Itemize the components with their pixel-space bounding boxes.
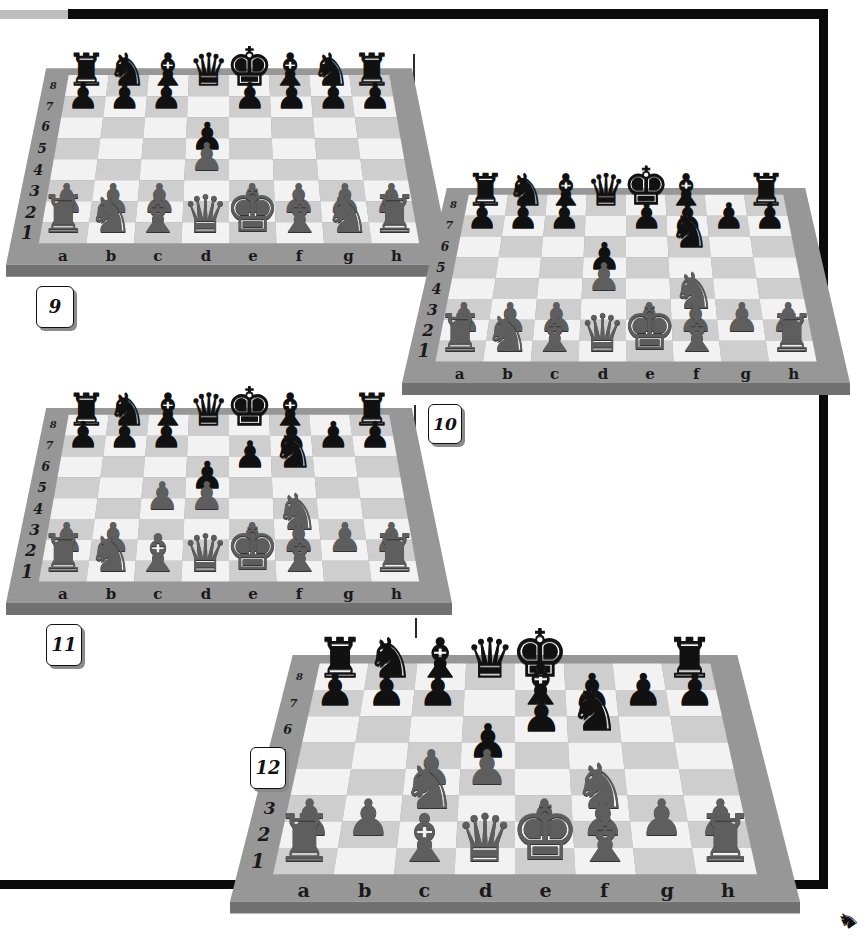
black-pawn-icon[interactable]: ♟ xyxy=(507,198,539,233)
black-pawn-icon[interactable]: ♟ xyxy=(754,198,786,233)
black-pawn-icon[interactable]: ♟ xyxy=(367,668,407,712)
square-f6[interactable] xyxy=(271,117,315,138)
square-a5[interactable] xyxy=(54,477,101,498)
square-h6[interactable] xyxy=(670,716,728,742)
square-h5[interactable] xyxy=(358,477,405,498)
square-a5[interactable] xyxy=(54,138,101,159)
white-knight-icon[interactable]: ♞ xyxy=(87,188,134,240)
black-pawn-icon[interactable]: ♟ xyxy=(359,78,391,114)
square-e6[interactable] xyxy=(229,117,272,138)
square-b6[interactable] xyxy=(499,237,544,258)
white-pawn-icon[interactable]: ♟ xyxy=(466,743,509,791)
black-pawn-icon[interactable]: ♟ xyxy=(631,198,663,233)
black-pawn-icon[interactable]: ♟ xyxy=(466,198,498,233)
square-b6[interactable] xyxy=(100,117,145,138)
white-pawn-icon[interactable]: ♟ xyxy=(190,138,224,176)
black-pawn-icon[interactable]: ♟ xyxy=(317,78,349,114)
white-king-icon[interactable]: ♚ xyxy=(510,793,581,872)
square-g6[interactable] xyxy=(709,237,754,258)
square-h5[interactable] xyxy=(358,138,405,159)
black-king-icon[interactable]: ♚ xyxy=(225,380,273,434)
white-bishop-icon[interactable]: ♝ xyxy=(531,307,578,359)
square-e5[interactable] xyxy=(515,743,570,769)
white-bishop-icon[interactable]: ♝ xyxy=(395,805,454,871)
square-a6[interactable] xyxy=(57,117,103,138)
square-c6[interactable] xyxy=(541,237,584,258)
white-pawn-icon[interactable]: ♟ xyxy=(724,298,760,338)
square-b6[interactable] xyxy=(355,716,411,742)
square-b5[interactable] xyxy=(98,477,144,498)
black-pawn-icon[interactable]: ♟ xyxy=(521,693,562,738)
white-knight-icon[interactable]: ♞ xyxy=(484,307,531,359)
white-queen-icon[interactable]: ♛ xyxy=(579,307,626,359)
white-pawn-icon[interactable]: ♟ xyxy=(327,518,363,558)
square-h6[interactable] xyxy=(355,117,401,138)
white-king-icon[interactable]: ♚ xyxy=(622,297,678,359)
white-rook-icon[interactable]: ♜ xyxy=(437,307,484,359)
black-pawn-icon[interactable]: ♟ xyxy=(675,668,715,712)
black-pawn-icon[interactable]: ♟ xyxy=(67,417,99,453)
square-a6[interactable] xyxy=(57,457,103,478)
square-g5[interactable] xyxy=(711,257,757,278)
square-h6[interactable] xyxy=(750,237,796,258)
square-d7[interactable] xyxy=(463,690,515,716)
square-e5[interactable] xyxy=(229,138,273,159)
black-pawn-icon[interactable]: ♟ xyxy=(275,78,307,114)
black-knight-icon[interactable]: ♞ xyxy=(272,427,314,474)
white-bishop-icon[interactable]: ♝ xyxy=(135,188,182,240)
square-b6[interactable] xyxy=(100,457,145,478)
white-bishop-icon[interactable]: ♝ xyxy=(575,805,634,871)
white-queen-icon[interactable]: ♛ xyxy=(455,805,514,871)
square-e5[interactable] xyxy=(229,477,273,498)
square-a5[interactable] xyxy=(452,257,499,278)
square-g1[interactable] xyxy=(633,848,696,874)
white-pawn-icon[interactable]: ♟ xyxy=(639,793,684,844)
square-g1[interactable] xyxy=(322,561,371,582)
white-pawn-icon[interactable]: ♟ xyxy=(587,258,621,296)
black-pawn-icon[interactable]: ♟ xyxy=(150,78,182,114)
square-g6[interactable] xyxy=(313,117,358,138)
black-queen-icon[interactable]: ♛ xyxy=(465,631,514,686)
black-pawn-icon[interactable]: ♟ xyxy=(548,198,580,233)
black-knight-icon[interactable]: ♞ xyxy=(668,208,710,255)
black-pawn-icon[interactable]: ♟ xyxy=(234,78,266,114)
white-pawn-icon[interactable]: ♟ xyxy=(190,477,224,515)
square-g6[interactable] xyxy=(313,457,358,478)
black-queen-icon[interactable]: ♛ xyxy=(188,48,228,93)
black-queen-icon[interactable]: ♛ xyxy=(586,168,626,212)
square-e5[interactable] xyxy=(626,257,669,278)
white-rook-icon[interactable]: ♜ xyxy=(40,527,87,579)
black-pawn-icon[interactable]: ♟ xyxy=(150,417,182,453)
black-pawn-icon[interactable]: ♟ xyxy=(315,668,355,712)
white-queen-icon[interactable]: ♛ xyxy=(182,527,229,579)
black-pawn-icon[interactable]: ♟ xyxy=(359,417,391,453)
white-rook-icon[interactable]: ♜ xyxy=(275,805,334,871)
black-pawn-icon[interactable]: ♟ xyxy=(418,668,458,712)
square-c5[interactable] xyxy=(539,257,584,278)
square-b5[interactable] xyxy=(98,138,144,159)
square-g5[interactable] xyxy=(621,743,679,769)
white-bishop-icon[interactable]: ♝ xyxy=(135,527,182,579)
black-pawn-icon[interactable]: ♟ xyxy=(109,417,141,453)
white-queen-icon[interactable]: ♛ xyxy=(182,188,229,240)
square-h6[interactable] xyxy=(355,457,401,478)
white-rook-icon[interactable]: ♜ xyxy=(768,307,815,359)
square-g1[interactable] xyxy=(719,341,769,362)
black-pawn-icon[interactable]: ♟ xyxy=(67,78,99,114)
black-knight-icon[interactable]: ♞ xyxy=(568,681,620,739)
white-rook-icon[interactable]: ♜ xyxy=(40,188,87,240)
white-pawn-icon[interactable]: ♟ xyxy=(145,477,179,515)
square-g5[interactable] xyxy=(315,138,361,159)
square-f5[interactable] xyxy=(272,138,317,159)
white-rook-icon[interactable]: ♜ xyxy=(696,805,755,871)
square-c5[interactable] xyxy=(141,138,186,159)
black-pawn-icon[interactable]: ♟ xyxy=(713,198,745,233)
square-h5[interactable] xyxy=(675,743,734,769)
white-knight-icon[interactable]: ♞ xyxy=(87,527,134,579)
white-bishop-icon[interactable]: ♝ xyxy=(674,307,721,359)
square-b5[interactable] xyxy=(496,257,542,278)
square-g5[interactable] xyxy=(315,477,361,498)
white-rook-icon[interactable]: ♜ xyxy=(371,527,418,579)
square-b1[interactable] xyxy=(334,848,397,874)
square-a6[interactable] xyxy=(456,237,502,258)
